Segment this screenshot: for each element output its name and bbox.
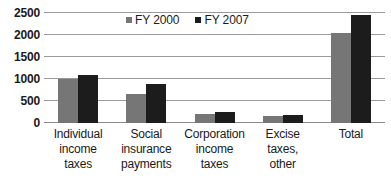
y-tick-label: 1000 xyxy=(0,73,40,85)
bar-group xyxy=(126,13,166,123)
x-category-label-line: Corporation xyxy=(180,127,248,142)
legend-swatch-icon xyxy=(195,17,201,23)
x-category-label: Excisetaxes,other xyxy=(249,127,317,172)
bar xyxy=(195,114,215,123)
y-tick-label: 2000 xyxy=(0,29,40,41)
y-tick-label: 2500 xyxy=(0,7,40,19)
bar xyxy=(146,84,166,123)
bar xyxy=(263,116,283,123)
plot-area xyxy=(44,13,385,123)
bar xyxy=(215,112,235,123)
x-category-label-line: taxes xyxy=(180,157,248,172)
bar xyxy=(78,75,98,123)
legend-label: FY 2000 xyxy=(135,14,179,26)
y-tick-label: 500 xyxy=(0,95,40,107)
bar xyxy=(126,94,146,123)
legend-label: FY 2007 xyxy=(204,14,248,26)
legend-entry[interactable]: FY 2000 xyxy=(126,14,179,26)
bar xyxy=(351,15,371,123)
bar xyxy=(331,33,351,123)
y-axis: 05001000150020002500 xyxy=(0,0,40,190)
x-category-label-line: other xyxy=(249,157,317,172)
x-category-label-line: payments xyxy=(112,157,180,172)
x-category-label-line: income xyxy=(180,142,248,157)
bar xyxy=(283,115,303,123)
legend-swatch-icon xyxy=(126,17,132,23)
x-category-label-line: income xyxy=(44,142,112,157)
chart-legend: FY 2000FY 2007 xyxy=(126,13,249,27)
bar-group xyxy=(331,13,371,123)
bar xyxy=(58,79,78,123)
bar-group xyxy=(195,13,235,123)
bar-chart: 05001000150020002500 FY 2000FY 2007 Indi… xyxy=(0,0,391,190)
bar-group xyxy=(263,13,303,123)
y-tick-label: 1500 xyxy=(0,51,40,63)
bar-group xyxy=(58,13,98,123)
y-tick-label: 0 xyxy=(0,117,40,129)
x-category-label: Total xyxy=(317,127,385,142)
x-category-label: Socialinsurancepayments xyxy=(112,127,180,172)
x-category-label-line: taxes, xyxy=(249,142,317,157)
x-category-label: Corporationincometaxes xyxy=(180,127,248,172)
x-category-label: Individualincometaxes xyxy=(44,127,112,172)
x-axis: IndividualincometaxesSocialinsurancepaym… xyxy=(44,127,385,190)
legend-entry[interactable]: FY 2007 xyxy=(195,14,248,26)
x-category-label-line: Social xyxy=(112,127,180,142)
x-category-label-line: Total xyxy=(317,127,385,142)
x-category-label-line: insurance xyxy=(112,142,180,157)
x-category-label-line: Excise xyxy=(249,127,317,142)
x-category-label-line: taxes xyxy=(44,157,112,172)
x-category-label-line: Individual xyxy=(44,127,112,142)
